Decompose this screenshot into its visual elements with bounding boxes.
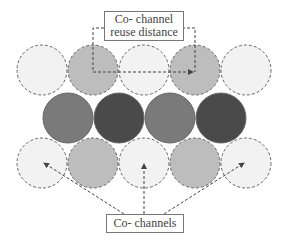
cell-darkest bbox=[94, 93, 144, 143]
cellular-reuse-diagram: Co- channel reuse distance Co- channels bbox=[0, 0, 288, 246]
cell-dark bbox=[43, 93, 93, 143]
cell-light bbox=[221, 138, 271, 188]
cell-light bbox=[221, 45, 271, 95]
cell-medium bbox=[68, 138, 118, 188]
cell-light bbox=[119, 45, 169, 95]
co-channels-label: Co- channels bbox=[106, 214, 184, 233]
label-line-2: reuse distance bbox=[105, 26, 183, 39]
cell-dark bbox=[145, 93, 195, 143]
cell-darkest bbox=[196, 93, 246, 143]
cell-medium bbox=[170, 138, 220, 188]
reuse-distance-label: Co- channel reuse distance bbox=[104, 11, 184, 41]
cell-light bbox=[119, 138, 169, 188]
cell-light bbox=[17, 138, 67, 188]
cell-light bbox=[17, 45, 67, 95]
